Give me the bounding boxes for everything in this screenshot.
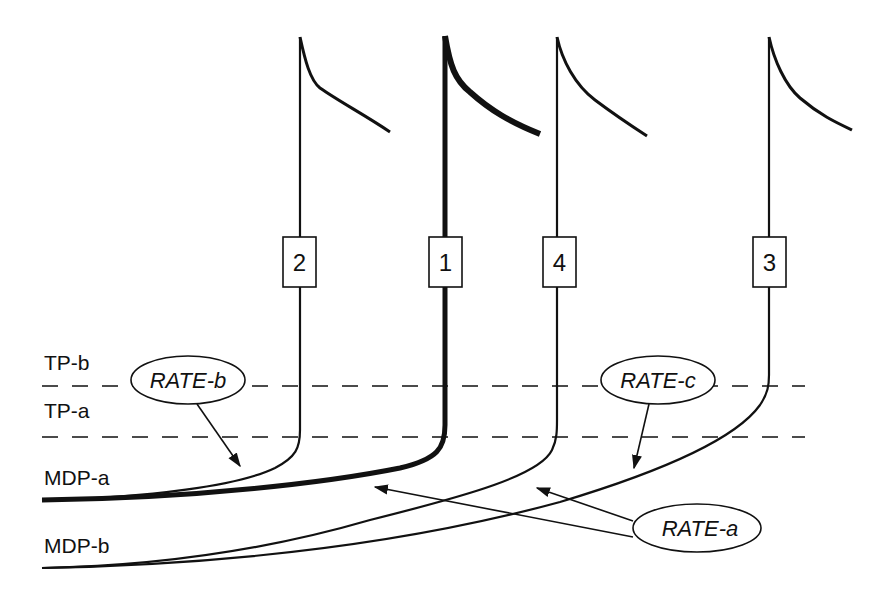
trace-4-box: 4 bbox=[543, 237, 576, 287]
mdp-a-label: MDP-a bbox=[44, 466, 110, 489]
trace-4 bbox=[42, 37, 647, 568]
mdp-b-label: MDP-b bbox=[44, 534, 109, 557]
trace-2-box: 2 bbox=[283, 237, 316, 287]
rate-a-arrow-to-mdp-a bbox=[375, 487, 633, 537]
trace-3-number: 3 bbox=[763, 249, 776, 276]
rate-c-label: RATE-c bbox=[620, 368, 695, 393]
trace-1-box: 1 bbox=[429, 237, 462, 287]
trace-3-box: 3 bbox=[753, 237, 786, 287]
rate-a-callout: RATE-a bbox=[375, 487, 761, 552]
rate-b-callout: RATE-b bbox=[131, 356, 245, 466]
trace-1-number: 1 bbox=[439, 249, 452, 276]
trace-2-number: 2 bbox=[293, 249, 306, 276]
tp-a-label: TP-a bbox=[44, 399, 90, 422]
rate-b-label: RATE-b bbox=[150, 368, 227, 393]
rate-b-arrow bbox=[197, 404, 240, 466]
trace-4-number: 4 bbox=[553, 249, 566, 276]
rate-a-label: RATE-a bbox=[662, 516, 739, 541]
rate-c-arrow bbox=[634, 404, 649, 468]
tp-b-label: TP-b bbox=[44, 351, 90, 374]
pacemaker-potential-diagram: TP-b TP-a MDP-a MDP-b 2 1 4 3 RATE bbox=[0, 0, 892, 599]
